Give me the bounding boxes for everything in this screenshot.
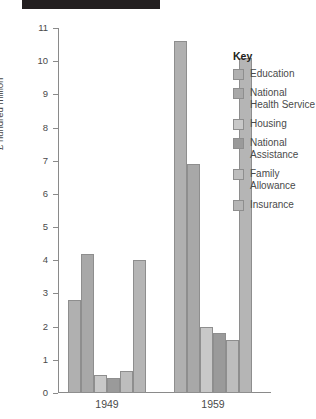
bar	[68, 300, 81, 393]
legend-swatch	[233, 169, 244, 180]
legend-item: National Health Service	[233, 87, 316, 111]
bar	[174, 41, 187, 393]
y-axis-tick-label: 6	[0, 189, 48, 199]
legend-item-label: National Health Service	[250, 87, 316, 111]
y-axis-tick-label: 11	[0, 23, 48, 33]
legend-item-label: Family Allowance	[250, 168, 316, 192]
y-axis-tick-label: 0	[0, 388, 48, 398]
legend-item: Education	[233, 68, 316, 80]
legend-item: Housing	[233, 118, 316, 130]
x-axis-group-label: 1949	[68, 398, 146, 410]
legend-title: Key	[233, 50, 316, 62]
legend-items: EducationNational Health ServiceHousingN…	[233, 68, 316, 211]
y-axis-tick-label: 4	[0, 255, 48, 265]
bar	[81, 254, 94, 393]
x-axis-group-label: 1959	[174, 398, 252, 410]
legend-item-label: National Assistance	[250, 137, 316, 161]
legend-swatch	[233, 200, 244, 211]
bar	[200, 327, 213, 393]
legend-item-label: Housing	[250, 118, 287, 130]
legend-item-label: Education	[250, 68, 294, 80]
bar	[94, 375, 107, 393]
bar	[133, 260, 146, 393]
legend-item: Family Allowance	[233, 168, 316, 192]
bar	[120, 371, 133, 393]
bar	[226, 340, 239, 393]
bar	[187, 164, 200, 393]
y-axis-tick	[53, 393, 58, 394]
y-axis-tick-label: 7	[0, 156, 48, 166]
legend-swatch	[233, 88, 244, 99]
legend-swatch	[233, 69, 244, 80]
legend-swatch	[233, 138, 244, 149]
y-axis-tick-label: 10	[0, 56, 48, 66]
y-axis-tick-label: 2	[0, 322, 48, 332]
bar	[107, 378, 120, 393]
legend-item: Insurance	[233, 199, 316, 211]
legend-item: National Assistance	[233, 137, 316, 161]
y-axis-tick-label: 9	[0, 89, 48, 99]
legend-item-label: Insurance	[250, 199, 294, 211]
legend: Key EducationNational Health ServiceHous…	[233, 50, 316, 218]
y-axis-tick-label: 5	[0, 222, 48, 232]
legend-swatch	[233, 119, 244, 130]
bar-chart-figure: £ hundred million 01234567891011 1949195…	[0, 0, 316, 419]
y-axis-tick-label: 3	[0, 288, 48, 298]
y-axis-tick-label: 1	[0, 355, 48, 365]
y-axis-tick-label: 8	[0, 123, 48, 133]
bar	[213, 333, 226, 393]
plot-area	[58, 28, 221, 393]
